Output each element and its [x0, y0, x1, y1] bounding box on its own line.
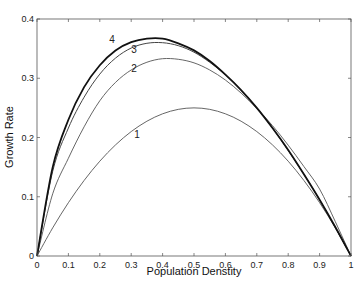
x-axis-title: Population Denstity: [147, 265, 242, 277]
line-chart: 1234 00.10.20.30.40.50.60.70.80.91 00.10…: [0, 0, 363, 287]
curve-labels-group: 1234: [109, 34, 140, 140]
y-axis-ticks: 00.10.20.30.4: [21, 14, 351, 261]
curve-label-1: 1: [134, 129, 140, 140]
x-tick-label: 0: [34, 260, 39, 270]
curve-4: [37, 38, 351, 256]
curve-label-2: 2: [131, 63, 137, 74]
y-tick-label: 0: [29, 251, 34, 261]
curve-label-3: 3: [131, 44, 137, 55]
x-tick-label: 0.7: [251, 260, 264, 270]
plot-frame: [37, 19, 351, 256]
curve-1: [37, 108, 351, 256]
curves-group: [37, 38, 351, 256]
y-tick-label: 0.4: [21, 14, 34, 24]
x-tick-label: 1: [348, 260, 353, 270]
y-tick-label: 0.3: [21, 73, 34, 83]
curve-3: [37, 42, 351, 256]
x-tick-label: 0.9: [313, 260, 326, 270]
x-tick-label: 0.2: [94, 260, 107, 270]
x-tick-label: 0.1: [62, 260, 75, 270]
y-axis-title: Growth Rate: [3, 106, 15, 168]
y-tick-label: 0.1: [21, 192, 34, 202]
curve-label-4: 4: [109, 34, 115, 45]
y-tick-label: 0.2: [21, 133, 34, 143]
x-tick-label: 0.3: [125, 260, 138, 270]
x-tick-label: 0.8: [282, 260, 295, 270]
x-axis-ticks: 00.10.20.30.40.50.60.70.80.91: [34, 19, 353, 270]
